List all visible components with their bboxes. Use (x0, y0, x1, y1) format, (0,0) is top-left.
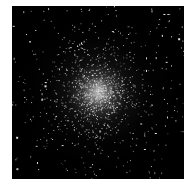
star-field (12, 6, 184, 179)
star-cluster-image (12, 6, 184, 179)
